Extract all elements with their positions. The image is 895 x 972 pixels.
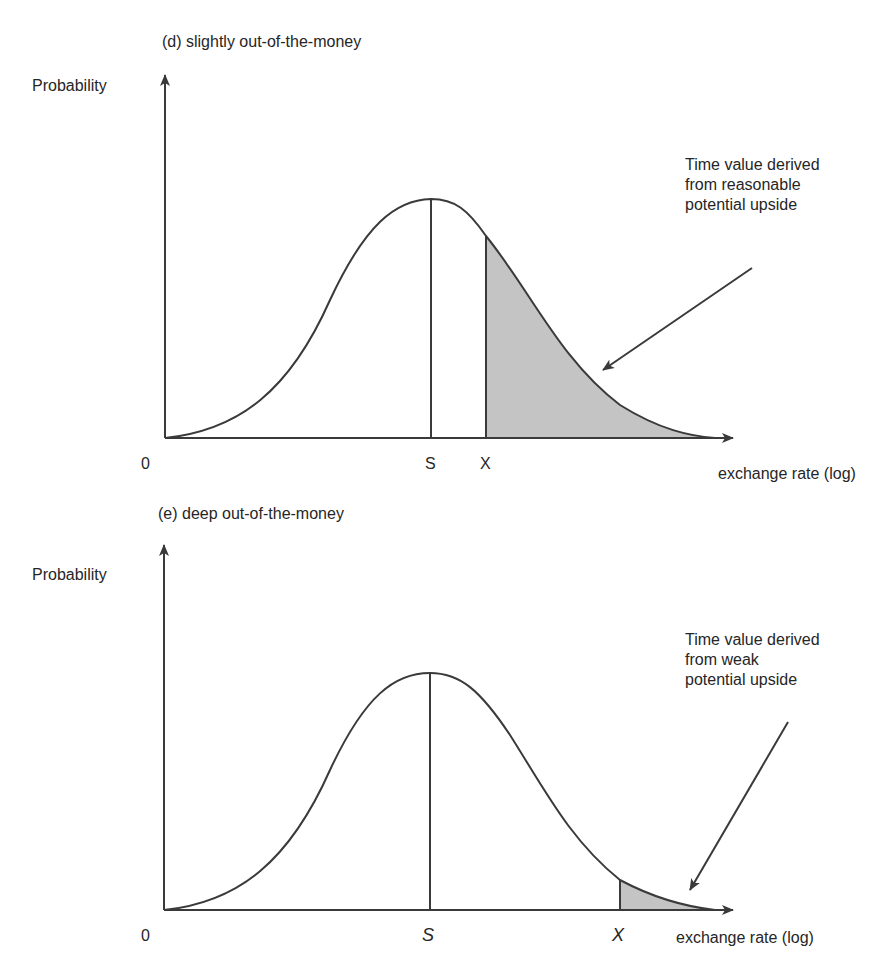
- shaded-time-value-area: [486, 236, 715, 438]
- strike-label: X: [612, 926, 624, 945]
- spot-label: S: [425, 454, 436, 473]
- shaded-time-value-area: [620, 880, 715, 910]
- spot-label: S: [422, 926, 434, 945]
- annotation-text: Time value derived from weak potential u…: [685, 630, 820, 690]
- panel-slightly-otm: (d) slightly out-of-the-money Probabilit…: [0, 0, 895, 480]
- strike-label: X: [480, 454, 491, 473]
- probability-curve: [164, 673, 715, 910]
- probability-curve: [165, 199, 715, 438]
- distribution-chart-e: [0, 480, 895, 972]
- y-axis-label: Probability: [32, 76, 107, 95]
- annotation-arrow: [603, 268, 752, 370]
- panel-deep-otm: (e) deep out-of-the-money Probability Ti…: [0, 480, 895, 972]
- annotation-arrow: [690, 722, 788, 890]
- distribution-chart-d: [0, 0, 895, 480]
- panel-title: (d) slightly out-of-the-money: [162, 32, 361, 51]
- annotation-text: Time value derived from reasonable poten…: [685, 155, 820, 215]
- origin-label: 0: [141, 926, 150, 945]
- x-axis-label: exchange rate (log): [676, 928, 814, 947]
- origin-label: 0: [141, 454, 150, 473]
- panel-title: (e) deep out-of-the-money: [158, 504, 344, 523]
- y-axis-label: Probability: [32, 565, 107, 584]
